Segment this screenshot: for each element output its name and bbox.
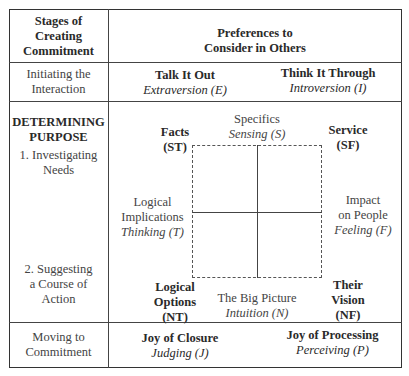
corner-st-line: (ST) [150, 140, 200, 155]
stage-initiating-line: Initiating the [9, 67, 108, 82]
label-feeling: Impact on People Feeling (F) [326, 193, 400, 238]
label-intuition-type: Intuition (N) [197, 306, 317, 321]
step-suggesting-action: 2. Suggesting a Course of Action [9, 262, 108, 307]
corner-nf-their-vision: Their Vision (NF) [318, 278, 378, 323]
label-sensing-title: Specifics [207, 112, 307, 127]
step-suggesting-line: 2. Suggesting [9, 262, 108, 277]
corner-nt-line: (NT) [145, 310, 205, 325]
corner-sf-line: Service [318, 123, 378, 138]
row-divider-header [9, 62, 402, 63]
label-intuition-title: The Big Picture [197, 291, 317, 306]
header-stages: Stages of Creating Commitment [9, 14, 108, 59]
corner-nf-line: (NF) [318, 308, 378, 323]
corner-nt-logical-options: Logical Options (NT) [145, 280, 205, 325]
step-suggesting-line: Action [9, 292, 108, 307]
corner-st-facts: Facts (ST) [150, 125, 200, 155]
header-preferences-line: Consider in Others [108, 41, 402, 56]
step-investigating-line: Needs [9, 163, 108, 178]
corner-nf-line: Their [318, 278, 378, 293]
header-preferences-line: Preferences to [108, 26, 402, 41]
row-divider-initiating [9, 101, 402, 102]
pref-introversion: Think It Through Introversion (I) [268, 66, 388, 96]
label-feeling-line: Impact [326, 193, 400, 208]
pref-extraversion: Talk It Out Extraversion (E) [130, 68, 240, 98]
label-intuition: The Big Picture Intuition (N) [197, 291, 317, 321]
header-stages-line: Commitment [9, 44, 108, 59]
step-suggesting-line: a Course of [9, 277, 108, 292]
step-investigating-line: 1. Investigating [9, 148, 108, 163]
pref-extraversion-title: Talk It Out [130, 68, 240, 83]
stage-initiating: Initiating the Interaction [9, 67, 108, 97]
stage-determining-line: PURPOSE [9, 130, 108, 145]
pref-perceiving-title: Joy of Processing [270, 328, 395, 343]
label-sensing: Specifics Sensing (S) [207, 112, 307, 142]
header-stages-line: Creating [9, 29, 108, 44]
header-stages-line: Stages of [9, 14, 108, 29]
pref-introversion-type: Introversion (I) [268, 81, 388, 96]
pref-judging: Joy of Closure Judging (J) [125, 331, 235, 361]
corner-nt-line: Options [145, 295, 205, 310]
header-preferences: Preferences to Consider in Others [108, 26, 402, 56]
corner-sf-service: Service (SF) [318, 123, 378, 153]
pref-introversion-title: Think It Through [268, 66, 388, 81]
stage-determining-line: DETERMINING [9, 115, 108, 130]
pref-judging-type: Judging (J) [125, 346, 235, 361]
corner-sf-line: (SF) [318, 138, 378, 153]
stage-moving-line: Commitment [9, 345, 108, 360]
pref-perceiving: Joy of Processing Perceiving (P) [270, 328, 395, 358]
label-sensing-type: Sensing (S) [207, 127, 307, 142]
step-investigating-needs: 1. Investigating Needs [9, 148, 108, 178]
stage-initiating-line: Interaction [9, 82, 108, 97]
stage-moving-line: Moving to [9, 330, 108, 345]
stage-determining-purpose: DETERMINING PURPOSE [9, 115, 108, 145]
label-feeling-line: on People [326, 208, 400, 223]
quadrant-horizontal-axis [192, 212, 322, 213]
label-feeling-type: Feeling (F) [326, 223, 400, 238]
pref-judging-title: Joy of Closure [125, 331, 235, 346]
label-thinking-line: Logical [115, 195, 190, 210]
label-thinking-line: Implications [115, 210, 190, 225]
label-thinking-type: Thinking (T) [115, 225, 190, 240]
corner-st-line: Facts [150, 125, 200, 140]
corner-nt-line: Logical [145, 280, 205, 295]
pref-perceiving-type: Perceiving (P) [270, 343, 395, 358]
stage-moving-to-commitment: Moving to Commitment [9, 330, 108, 360]
label-thinking: Logical Implications Thinking (T) [115, 195, 190, 240]
corner-nf-line: Vision [318, 293, 378, 308]
pref-extraversion-type: Extraversion (E) [130, 83, 240, 98]
